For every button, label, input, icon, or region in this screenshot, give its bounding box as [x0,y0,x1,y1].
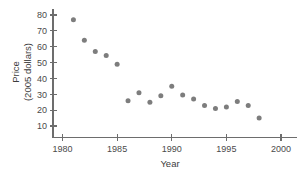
data-point [235,99,240,104]
x-axis-tick-label: 2000 [271,144,291,154]
data-point [147,100,152,105]
y-axis-tick-label: 40 [37,74,47,84]
data-point [246,103,251,108]
x-axis-tick-label: 1990 [162,144,182,154]
data-point [82,38,87,43]
data-point [71,17,76,22]
data-point [104,53,109,58]
data-point [136,90,141,95]
chart-canvas: 1020304050607080 19801985199019952000 Ye… [0,0,306,174]
data-point [126,98,131,103]
x-axis-title: Year [160,158,179,169]
x-axis-tick-label: 1985 [107,144,127,154]
y-axis-tick-label: 30 [37,90,47,100]
scatter-plot: 1020304050607080 19801985199019952000 Ye… [0,0,306,174]
y-axis-tick-label: 60 [37,42,47,52]
y-axis-tick-label: 70 [37,26,47,36]
y-axis-title-line2: (2005 dollars) [22,43,33,101]
y-axis-title-line1: Price [10,61,21,83]
x-axis: 19801985199019952000 [52,134,297,154]
y-axis: 1020304050607080 [37,9,57,138]
y-axis-tick-label: 80 [37,10,47,20]
y-axis-tick-label: 10 [37,121,47,131]
y-axis-title: Price (2005 dollars) [10,43,33,101]
data-point [180,93,185,98]
data-point [202,103,207,108]
data-point [169,84,174,89]
data-point [257,116,262,121]
data-point [213,106,218,111]
y-axis-tick-label: 50 [37,58,47,68]
data-point [115,62,120,67]
data-point [93,49,98,54]
y-axis-tick-label: 20 [37,105,47,115]
x-axis-tick-label: 1995 [216,144,236,154]
x-axis-tick-label: 1980 [52,144,72,154]
data-points [71,17,262,120]
data-point [158,93,163,98]
chart-screenshot: 1020304050607080 19801985199019952000 Ye… [0,0,306,174]
data-point [191,97,196,102]
data-point [224,104,229,109]
